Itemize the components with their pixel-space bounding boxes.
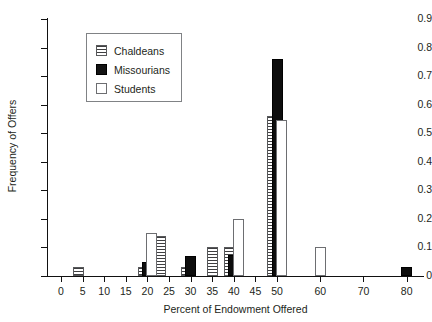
legend-item[interactable]: Students bbox=[96, 79, 181, 98]
chart-legend: Chaldeans Missourians Students bbox=[86, 33, 182, 102]
legend-label: Chaldeans bbox=[114, 45, 164, 57]
x-axis-tick bbox=[83, 277, 84, 282]
legend-item[interactable]: Missourians bbox=[96, 60, 181, 79]
y-axis-tick bbox=[41, 247, 47, 248]
chart-figure: Frequency of Offers 00.10.20.30.40.50.60… bbox=[0, 0, 432, 322]
bar-chaldeans bbox=[73, 267, 84, 276]
x-axis-tick bbox=[104, 277, 105, 282]
y-axis-tick bbox=[41, 19, 47, 20]
x-axis-tick bbox=[407, 277, 408, 282]
x-axis-tick-label: 60 bbox=[305, 285, 335, 297]
x-axis-tick bbox=[126, 277, 127, 282]
bar-students bbox=[146, 233, 157, 276]
y-axis-tick bbox=[41, 219, 47, 220]
y-axis-tick bbox=[41, 48, 47, 49]
x-axis-tick bbox=[169, 277, 170, 282]
x-axis-title: Percent of Endowment Offered bbox=[47, 303, 424, 315]
y-axis-tick bbox=[41, 276, 47, 277]
y-axis-title: Frequency of Offers bbox=[6, 16, 18, 276]
legend-swatch-missourians-icon bbox=[96, 64, 107, 75]
bar-missourians bbox=[401, 267, 412, 276]
x-axis-tick bbox=[363, 277, 364, 282]
y-axis-tick bbox=[41, 190, 47, 191]
y-axis-tick bbox=[41, 105, 47, 106]
y-axis-tick bbox=[41, 133, 47, 134]
y-axis-tick bbox=[41, 162, 47, 163]
legend-label: Students bbox=[114, 83, 155, 95]
x-axis-tick-label: 70 bbox=[348, 285, 378, 297]
bar-missourians bbox=[185, 256, 196, 276]
x-axis-tick bbox=[234, 277, 235, 282]
x-axis-tick-label: 50 bbox=[262, 285, 292, 297]
y-axis-tick bbox=[41, 76, 47, 77]
x-axis-tick-label: 80 bbox=[392, 285, 422, 297]
x-axis-tick bbox=[191, 277, 192, 282]
x-axis-tick bbox=[255, 277, 256, 282]
bar-students bbox=[315, 247, 326, 276]
legend-item[interactable]: Chaldeans bbox=[96, 41, 181, 60]
x-axis-tick bbox=[320, 277, 321, 282]
legend-swatch-students-icon bbox=[96, 83, 107, 94]
x-axis-tick bbox=[147, 277, 148, 282]
x-axis-tick bbox=[212, 277, 213, 282]
bar-students bbox=[233, 219, 244, 276]
legend-swatch-chaldeans-icon bbox=[96, 45, 107, 56]
x-axis-tick bbox=[277, 277, 278, 282]
bar-students bbox=[276, 120, 287, 276]
legend-label: Missourians bbox=[114, 64, 170, 76]
bar-chaldeans bbox=[207, 247, 218, 276]
x-axis-tick bbox=[61, 277, 62, 282]
